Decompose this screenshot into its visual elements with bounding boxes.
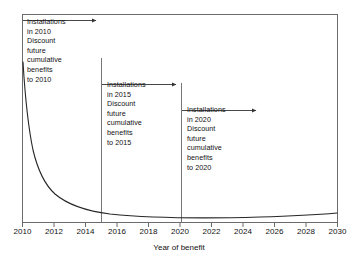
x-tick-label-2028: 2028	[291, 227, 321, 236]
discount-benefits-chart: Installations in 2010 Discount future cu…	[0, 0, 358, 265]
x-tick-label-2026: 2026	[260, 227, 290, 236]
x-axis-title: Year of benefit	[0, 243, 358, 252]
x-tick-label-2024: 2024	[228, 227, 258, 236]
annotation-installations-2015: Installations in 2015 Discount future cu…	[107, 80, 146, 147]
x-tick-label-2010: 2010	[8, 227, 38, 236]
plot-border	[23, 15, 338, 223]
x-tick-label-2030: 2030	[323, 227, 353, 236]
x-tick-label-2012: 2012	[39, 227, 69, 236]
x-tick-label-2014: 2014	[71, 227, 101, 236]
annotation-installations-2020: Installations in 2020 Discount future cu…	[187, 105, 226, 172]
discount-curve	[23, 62, 337, 218]
x-tick-label-2018: 2018	[134, 227, 164, 236]
x-tick-label-2022: 2022	[197, 227, 227, 236]
annotation-installations-2010: Installations in 2010 Discount future cu…	[27, 17, 66, 84]
x-tick-label-2020: 2020	[165, 227, 195, 236]
x-tick-label-2016: 2016	[102, 227, 132, 236]
